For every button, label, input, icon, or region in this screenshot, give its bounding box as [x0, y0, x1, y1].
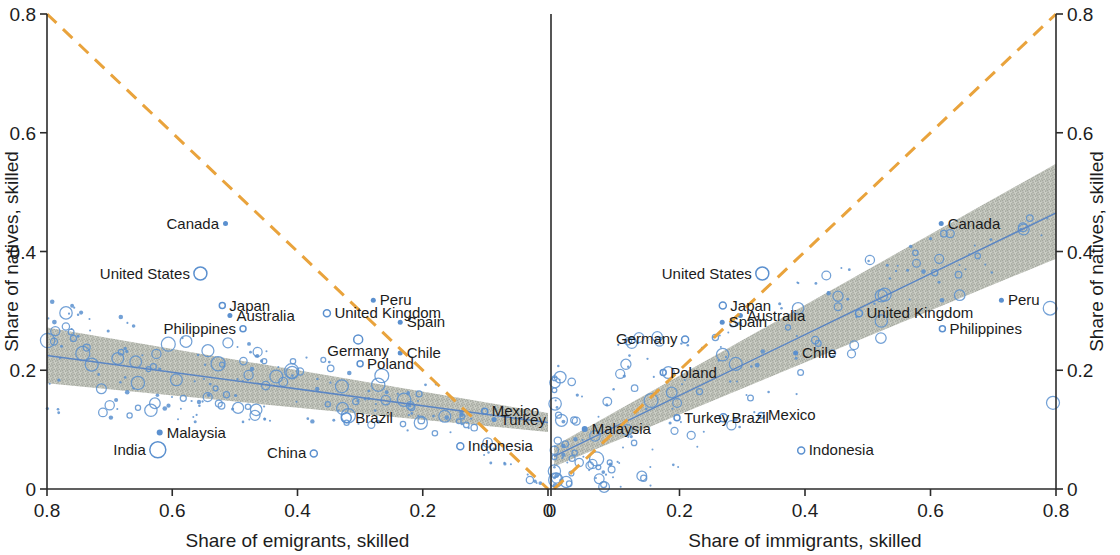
scatter-point	[177, 418, 179, 420]
scatter-point	[269, 420, 271, 422]
point-label: Chile	[802, 344, 836, 361]
scatter-point-labeled	[793, 351, 798, 356]
scatter-point-labeled	[219, 303, 225, 309]
scatter-point	[49, 383, 51, 385]
point-label: Malaysia	[167, 424, 227, 441]
scatter-point	[127, 413, 132, 418]
point-label: Poland	[670, 364, 717, 381]
scatter-point	[553, 476, 556, 479]
scatter-point	[725, 356, 727, 358]
scatter-point	[105, 401, 114, 410]
scatter-point	[77, 314, 80, 317]
scatter-point	[347, 371, 352, 376]
scatter-point	[729, 380, 732, 383]
point-label: Indonesia	[809, 441, 875, 458]
point-label: United States	[662, 265, 752, 282]
point-label: Poland	[367, 355, 414, 372]
scatter-point	[316, 378, 318, 380]
scatter-point	[848, 350, 856, 358]
scatter-point	[119, 381, 121, 383]
scatter-point	[50, 300, 55, 305]
scatter-point	[234, 394, 237, 397]
scatter-point	[940, 298, 945, 303]
scatter-point-labeled	[150, 442, 166, 458]
point-label: Peru	[380, 291, 412, 308]
scatter-point	[125, 350, 128, 353]
scatter-point	[247, 342, 251, 346]
scatter-point	[617, 461, 619, 463]
scatter-point	[1041, 234, 1043, 236]
scatter-point	[598, 416, 600, 418]
right-x-tick-label: 0.8	[1043, 500, 1069, 521]
scatter-point	[628, 354, 631, 357]
scatter-point	[581, 396, 583, 398]
point-label: Mexico	[768, 406, 816, 423]
scatter-point	[573, 437, 577, 441]
scatter-point	[746, 394, 748, 396]
scatter-point	[645, 407, 648, 410]
scatter-point	[909, 299, 911, 301]
scatter-point	[263, 418, 266, 421]
scatter-point	[236, 378, 238, 380]
point-label: China	[267, 444, 307, 461]
right-x-tick-label: 0.4	[792, 500, 819, 521]
left-x-tick-label: 0.2	[410, 500, 436, 521]
scatter-point-labeled	[223, 221, 228, 226]
scatter-point	[471, 424, 477, 430]
right-y-tick-label: 0.8	[1067, 4, 1093, 25]
scatter-point	[88, 318, 90, 320]
scatter-point	[750, 365, 753, 368]
scatter-point-labeled	[371, 298, 376, 303]
scatter-point	[696, 446, 698, 448]
left-y-tick-label: 0.2	[10, 360, 36, 381]
scatter-point	[651, 448, 653, 450]
scatter-point-labeled	[227, 313, 232, 318]
scatter-point	[964, 268, 966, 270]
scatter-point	[247, 379, 249, 381]
scatter-point	[432, 415, 435, 418]
scatter-point	[406, 429, 408, 431]
scatter-point	[470, 417, 472, 419]
point-label: Turkey	[684, 409, 730, 426]
right-x-tick-label: 0.6	[917, 500, 943, 521]
scatter-point	[608, 466, 615, 473]
scatter-point	[356, 400, 358, 402]
point-label: India	[113, 441, 146, 458]
scatter-point	[621, 359, 631, 369]
point-label: Spain	[729, 313, 767, 330]
left-y-tick-label: 0.8	[10, 4, 36, 25]
scatter-point	[242, 421, 245, 424]
scatter-point	[192, 416, 194, 418]
scatter-point	[767, 391, 770, 394]
scatter-point	[959, 264, 961, 266]
scatter-point	[73, 307, 75, 309]
scatter-point-labeled	[194, 267, 207, 280]
scatter-point	[1047, 396, 1060, 409]
scatter-point	[201, 400, 203, 402]
scatter-point	[410, 412, 413, 415]
point-label: Canada	[948, 215, 1001, 232]
scatter-point	[329, 382, 331, 384]
right-x-tick-label: 0.2	[666, 500, 692, 521]
scatter-point	[124, 376, 127, 379]
scatter-point	[755, 363, 760, 368]
scatter-point-labeled	[240, 326, 246, 332]
scatter-point	[671, 408, 673, 410]
scatter-point	[60, 307, 72, 319]
center-x-tick-label: 0	[546, 500, 557, 521]
scatter-point	[974, 245, 976, 247]
scatter-point	[417, 415, 419, 417]
scatter-point	[203, 378, 205, 380]
point-label: Peru	[1008, 291, 1040, 308]
scatter-point	[561, 420, 565, 424]
scatter-point	[424, 383, 427, 386]
scatter-point	[718, 360, 720, 362]
scatter-point	[897, 265, 899, 267]
scatter-point	[797, 282, 799, 284]
scatter-point	[223, 338, 233, 348]
scatter-point	[561, 453, 565, 457]
scatter-point	[198, 404, 201, 407]
scatter-point	[180, 408, 182, 410]
scatter-point	[150, 398, 161, 409]
scatter-point	[207, 393, 211, 397]
